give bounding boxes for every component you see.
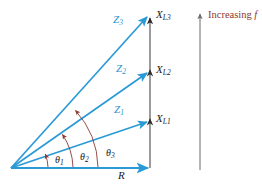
phasor-diagram-figure: Z3 Z2 Z1 XL3 XL2 XL1 θ1 θ2 θ3 R Increasi… (0, 0, 262, 186)
phasor-label-z3: Z3 (113, 14, 123, 25)
reactance-label-xl2: XL2 (156, 64, 171, 75)
reactance-label-xl3: XL3 (156, 9, 171, 20)
phasor-label-z2: Z2 (116, 63, 126, 74)
angle-label-theta3: θ3 (106, 147, 115, 158)
resistance-label: R (118, 170, 125, 181)
reactance-label-xl1: XL1 (156, 113, 171, 124)
impedance-phasors (11, 17, 147, 168)
phasor-z2 (11, 73, 147, 168)
angle-label-theta1: θ1 (55, 154, 64, 165)
angle-label-theta2: θ2 (80, 151, 89, 162)
increasing-frequency-label: Increasing f (208, 10, 257, 21)
phasor-diagram-canvas (0, 0, 262, 186)
phasor-label-z1: Z1 (114, 104, 124, 115)
